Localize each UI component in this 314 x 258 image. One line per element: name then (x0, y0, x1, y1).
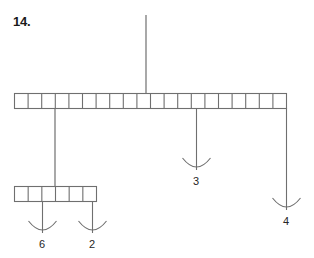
tape-diagram-svg (0, 0, 314, 258)
arrow-label-4: 4 (276, 215, 296, 227)
bottom-bar (15, 187, 97, 202)
arrow-label-3: 3 (186, 175, 206, 187)
arrow-label-6: 6 (32, 238, 52, 250)
top-bar (15, 94, 287, 109)
arrow-label-2: 2 (82, 238, 102, 250)
arrow-group (29, 108, 301, 233)
